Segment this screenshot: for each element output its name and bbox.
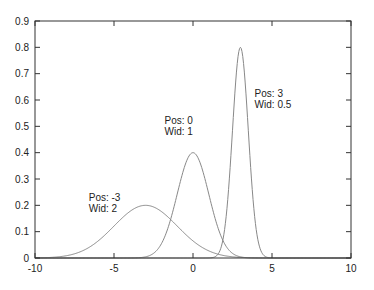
x-tick-label: 5 [269,263,275,274]
annotation-pos: Pos: 0 [165,115,194,126]
x-axis: -10-50510 [28,21,357,274]
y-axis: 00.10.20.30.40.50.60.70.80.9 [15,16,351,264]
y-tick-label: 0.1 [15,226,29,237]
y-tick-label: 0 [23,253,29,264]
gaussian-chart: -10-50510 00.10.20.30.40.50.60.70.80.9 P… [0,0,374,290]
y-tick-label: 0.2 [15,200,29,211]
annotation-wid: Wid: 1 [165,126,194,137]
x-tick-label: 10 [345,263,357,274]
x-tick-label: 0 [190,263,196,274]
gaussian-curve [35,205,351,258]
annotation-pos: Pos: -3 [89,192,121,203]
annotation-pos: Pos: 3 [255,88,284,99]
y-tick-label: 0.7 [15,68,29,79]
annotation-wid: Wid: 0.5 [255,99,292,110]
x-tick-label: -5 [110,263,119,274]
y-tick-label: 0.8 [15,42,29,53]
y-tick-label: 0.9 [15,16,29,27]
annotations: Pos: -3Wid: 2Pos: 0Wid: 1Pos: 3Wid: 0.5 [89,88,292,214]
curves [35,47,351,258]
y-tick-label: 0.5 [15,121,29,132]
y-tick-label: 0.4 [15,147,29,158]
annotation-wid: Wid: 2 [89,203,118,214]
y-tick-label: 0.3 [15,174,29,185]
plot-frame [35,21,351,258]
gaussian-curve [35,153,351,258]
x-tick-label: -10 [28,263,43,274]
y-tick-label: 0.6 [15,95,29,106]
